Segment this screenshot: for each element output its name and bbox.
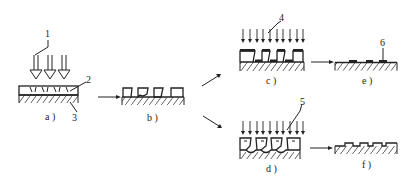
arrow-b-to-c — [202, 74, 221, 86]
deposition-arrows — [241, 29, 305, 43]
arrow-c-to-e — [311, 60, 334, 64]
panel-label-b: b ) — [147, 112, 158, 124]
developed-resist-pattern — [123, 88, 183, 97]
arrow-a-to-b — [98, 95, 121, 99]
callout-leader-5 — [287, 104, 302, 130]
panel-label-f: f ) — [362, 159, 371, 171]
resist-mask — [240, 138, 300, 150]
resist-with-film — [240, 49, 303, 62]
callout-6: 6 — [380, 37, 385, 48]
photoresist-layer — [19, 86, 78, 95]
callout-leader-3 — [70, 102, 77, 112]
panel-b: b ) — [122, 88, 184, 124]
arrow-b-to-d — [203, 116, 222, 128]
panel-f: f ) — [335, 143, 397, 171]
arrow-d-to-f — [310, 146, 333, 150]
substrate — [240, 62, 304, 71]
etching-arrows — [241, 121, 305, 135]
exposure-light-arrows — [30, 55, 70, 79]
panel-label-d: d ) — [266, 163, 277, 175]
panel-e: 6 e ) — [335, 37, 397, 87]
callout-4: 4 — [279, 12, 284, 23]
callout-leader-1 — [35, 40, 48, 55]
substrate — [19, 95, 78, 103]
callout-2: 2 — [86, 74, 91, 85]
panel-label-e: e ) — [362, 75, 372, 87]
substrate — [335, 146, 397, 154]
panel-c: 4 c ) — [240, 12, 305, 87]
substrate — [335, 63, 397, 71]
etched-surface — [335, 143, 397, 146]
etched-substrate — [240, 150, 301, 159]
panel-a: 1 2 3 a ) — [19, 28, 91, 123]
photolithography-process-diagram: 1 2 3 a ) b ) — [0, 0, 411, 182]
panel-label-a: a ) — [45, 111, 55, 123]
substrate — [122, 97, 184, 105]
panel-label-c: c ) — [266, 75, 276, 87]
callout-5: 5 — [300, 96, 305, 107]
panel-d: 5 d ) — [240, 96, 305, 175]
callout-3: 3 — [72, 112, 77, 123]
exposed-regions — [30, 87, 68, 92]
callout-1: 1 — [45, 28, 50, 39]
